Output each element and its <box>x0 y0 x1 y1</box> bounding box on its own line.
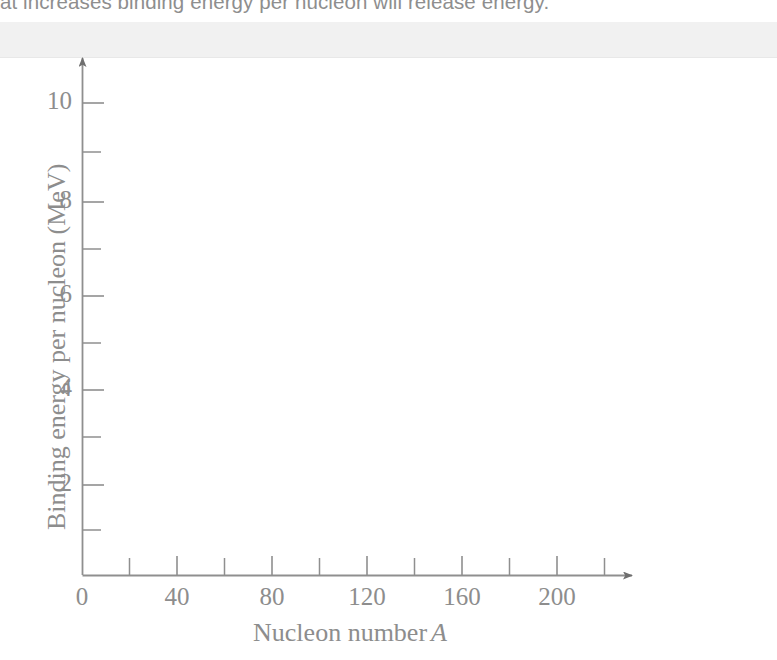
xtick-label-200: 200 <box>527 583 587 611</box>
xtick-label-120: 120 <box>337 583 397 611</box>
y-axis-title: Binding energy per nucleon (MeV) <box>42 164 72 530</box>
xtick-label-80: 80 <box>242 583 302 611</box>
x-axis-title-symbol: A <box>427 618 447 647</box>
xtick-label-40: 40 <box>147 583 207 611</box>
x-major-ticks <box>177 556 557 575</box>
xtick-label-160: 160 <box>432 583 492 611</box>
y-major-ticks <box>83 103 104 485</box>
y-minor-ticks <box>83 152 101 530</box>
xtick-label-0: 0 <box>52 583 112 611</box>
x-axis-title-text: Nucleon number <box>253 618 427 647</box>
plot-axes-svg <box>0 0 777 660</box>
ytick-label-10: 10 <box>10 87 72 115</box>
x-axis-title: Nucleon numberA <box>0 618 700 648</box>
binding-energy-figure: 10 8 6 4 2 0 40 80 120 160 200 Nucleon n… <box>0 0 777 660</box>
